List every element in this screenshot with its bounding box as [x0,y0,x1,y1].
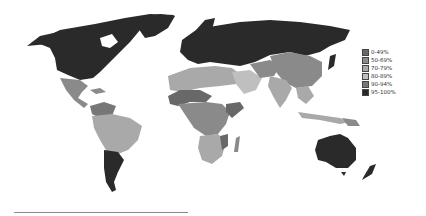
region-new-zealand [362,164,376,180]
region-southeast-asia [296,86,314,104]
legend-item: 90-94% [362,80,396,88]
region-madagascar [234,136,240,152]
legend-swatch [362,49,369,56]
legend-label: 95-100% [371,88,396,96]
legend-label: 80-89% [371,72,392,80]
world-map [0,0,426,216]
legend-swatch [362,89,369,96]
legend-label: 0-49% [371,48,389,56]
region-tasmania [341,172,346,176]
legend-item: 80-89% [362,72,396,80]
region-caribbean [90,88,106,94]
region-greenland [135,14,175,38]
legend-item: 0-49% [362,48,396,56]
region-australia [315,134,356,168]
legend-label: 70-79% [371,64,392,72]
region-mexico [60,78,88,108]
region-indonesia [298,112,350,124]
legend-swatch [362,81,369,88]
legend-item: 50-69% [362,56,396,64]
region-north-africa [168,66,240,92]
region-southern-cone [104,150,124,192]
divider-line [14,212,188,213]
legend-item: 95-100% [362,88,396,96]
legend-swatch [362,65,369,72]
legend-item: 70-79% [362,64,396,72]
legend-swatch [362,57,369,64]
map-legend: 0-49% 50-69% 70-79% 80-89% 90-94% 95-100… [362,48,396,96]
region-central-africa [178,102,230,136]
legend-label: 50-69% [371,56,392,64]
region-scandinavia [196,18,215,30]
legend-label: 90-94% [371,80,392,88]
legend-swatch [362,73,369,80]
region-japan [328,54,336,70]
